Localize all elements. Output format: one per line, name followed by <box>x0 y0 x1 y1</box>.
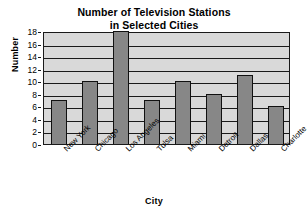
y-tick-label: 10 <box>28 78 37 87</box>
y-tick-mark <box>38 120 41 121</box>
x-tick-label: Charlotte <box>279 147 285 153</box>
y-tick-mark <box>38 145 41 146</box>
x-axis-title: City <box>0 196 308 206</box>
y-axis-tick-labels: 024681012141618 <box>0 32 41 145</box>
x-tick-label: Detroit <box>217 147 223 153</box>
y-tick-label: 0 <box>32 141 37 150</box>
chart-title-line-1: Number of Television Stations <box>0 6 308 19</box>
bar <box>175 81 191 144</box>
chart-title: Number of Television Stations in Selecte… <box>0 6 308 32</box>
y-tick-label: 4 <box>32 115 37 124</box>
y-tick-label: 16 <box>28 40 37 49</box>
bar <box>237 75 253 144</box>
x-tick-label: Tulsa <box>155 147 161 153</box>
bar <box>206 94 222 144</box>
y-tick-mark <box>38 70 41 71</box>
x-tick-label: Los Angeles <box>124 147 130 153</box>
y-tick-label: 18 <box>28 28 37 37</box>
y-tick-label: 12 <box>28 65 37 74</box>
y-tick-mark <box>38 107 41 108</box>
chart-title-line-2: in Selected Cities <box>0 19 308 32</box>
y-tick-mark <box>38 57 41 58</box>
y-tick-mark <box>38 132 41 133</box>
x-tick-label: Chicago <box>93 147 99 153</box>
bar <box>51 100 67 144</box>
bar <box>113 31 129 144</box>
y-tick-mark <box>38 32 41 33</box>
y-tick-mark <box>38 82 41 83</box>
y-tick-label: 6 <box>32 103 37 112</box>
bar <box>268 106 284 144</box>
x-tick-label: Dallas <box>248 147 254 153</box>
y-tick-mark <box>38 45 41 46</box>
y-tick-label: 14 <box>28 53 37 62</box>
x-tick-label: Miami <box>186 147 192 153</box>
y-tick-label: 8 <box>32 90 37 99</box>
x-axis-tick-labels: New YorkChicagoLos AngelesTulsaMiamiDetr… <box>43 145 290 190</box>
x-tick-label: New York <box>62 147 68 153</box>
y-tick-mark <box>38 95 41 96</box>
y-tick-label: 2 <box>32 128 37 137</box>
